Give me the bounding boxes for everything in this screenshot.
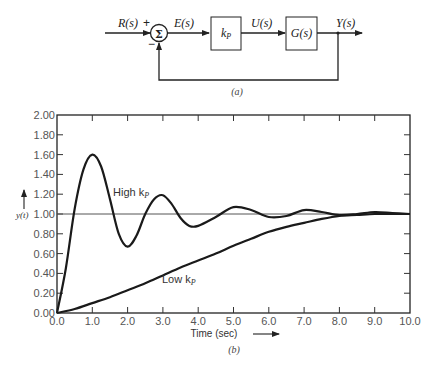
x-tick-label: 9.0 [367, 315, 382, 327]
plant-label: G(s) [291, 26, 312, 40]
y-tick-label: 1.20 [34, 188, 55, 200]
x-axis-label: Time (sec) [191, 328, 238, 339]
y-tick-label: 0.80 [34, 228, 55, 240]
y-tick-label: 0.20 [34, 287, 55, 299]
low-kp-label: Low kP [162, 273, 196, 287]
input-label: R(s) [117, 16, 138, 30]
diagram-caption: (a) [231, 86, 243, 98]
high-kp-curve [57, 155, 410, 313]
chart-caption: (b) [228, 344, 240, 356]
x-tick-label: 7.0 [296, 315, 311, 327]
x-tick-label: 3.0 [155, 315, 170, 327]
x-axis-ticks: 0.01.02.03.04.05.06.07.08.09.010.0 [49, 115, 420, 327]
y-tick-label: 1.00 [34, 208, 55, 220]
x-tick-label: 0.0 [49, 315, 64, 327]
summing-symbol: Σ [155, 28, 163, 41]
low-kp-curve [57, 214, 410, 313]
error-label: E(s) [173, 16, 194, 30]
y-tick-label: 1.80 [34, 129, 55, 141]
control-label: U(s) [251, 16, 272, 30]
y-tick-label: 0.60 [34, 248, 55, 260]
output-label: Y(s) [336, 16, 355, 30]
x-tick-label: 1.0 [85, 315, 100, 327]
x-tick-label: 6.0 [261, 315, 276, 327]
y-tick-label: 2.00 [34, 109, 55, 121]
y-tick-label: 1.40 [34, 168, 55, 180]
step-response-chart: 0.000.200.400.600.801.001.201.401.601.80… [15, 109, 421, 356]
x-tick-label: 5.0 [226, 315, 241, 327]
plus-sign: + [143, 16, 150, 30]
y-tick-label: 1.60 [34, 149, 55, 161]
y-tick-label: 0.40 [34, 267, 55, 279]
figure: R(s) + − Σ E(s) kP U(s) G(s) Y(s) (a) 0.… [0, 0, 434, 369]
y-axis-label: y(t) [15, 210, 29, 220]
high-kp-label: High kP [113, 186, 149, 200]
x-tick-label: 10.0 [399, 315, 420, 327]
x-tick-label: 2.0 [120, 315, 135, 327]
x-tick-label: 8.0 [332, 315, 347, 327]
x-tick-label: 4.0 [191, 315, 206, 327]
block-diagram: R(s) + − Σ E(s) kP U(s) G(s) Y(s) (a) [105, 16, 362, 98]
